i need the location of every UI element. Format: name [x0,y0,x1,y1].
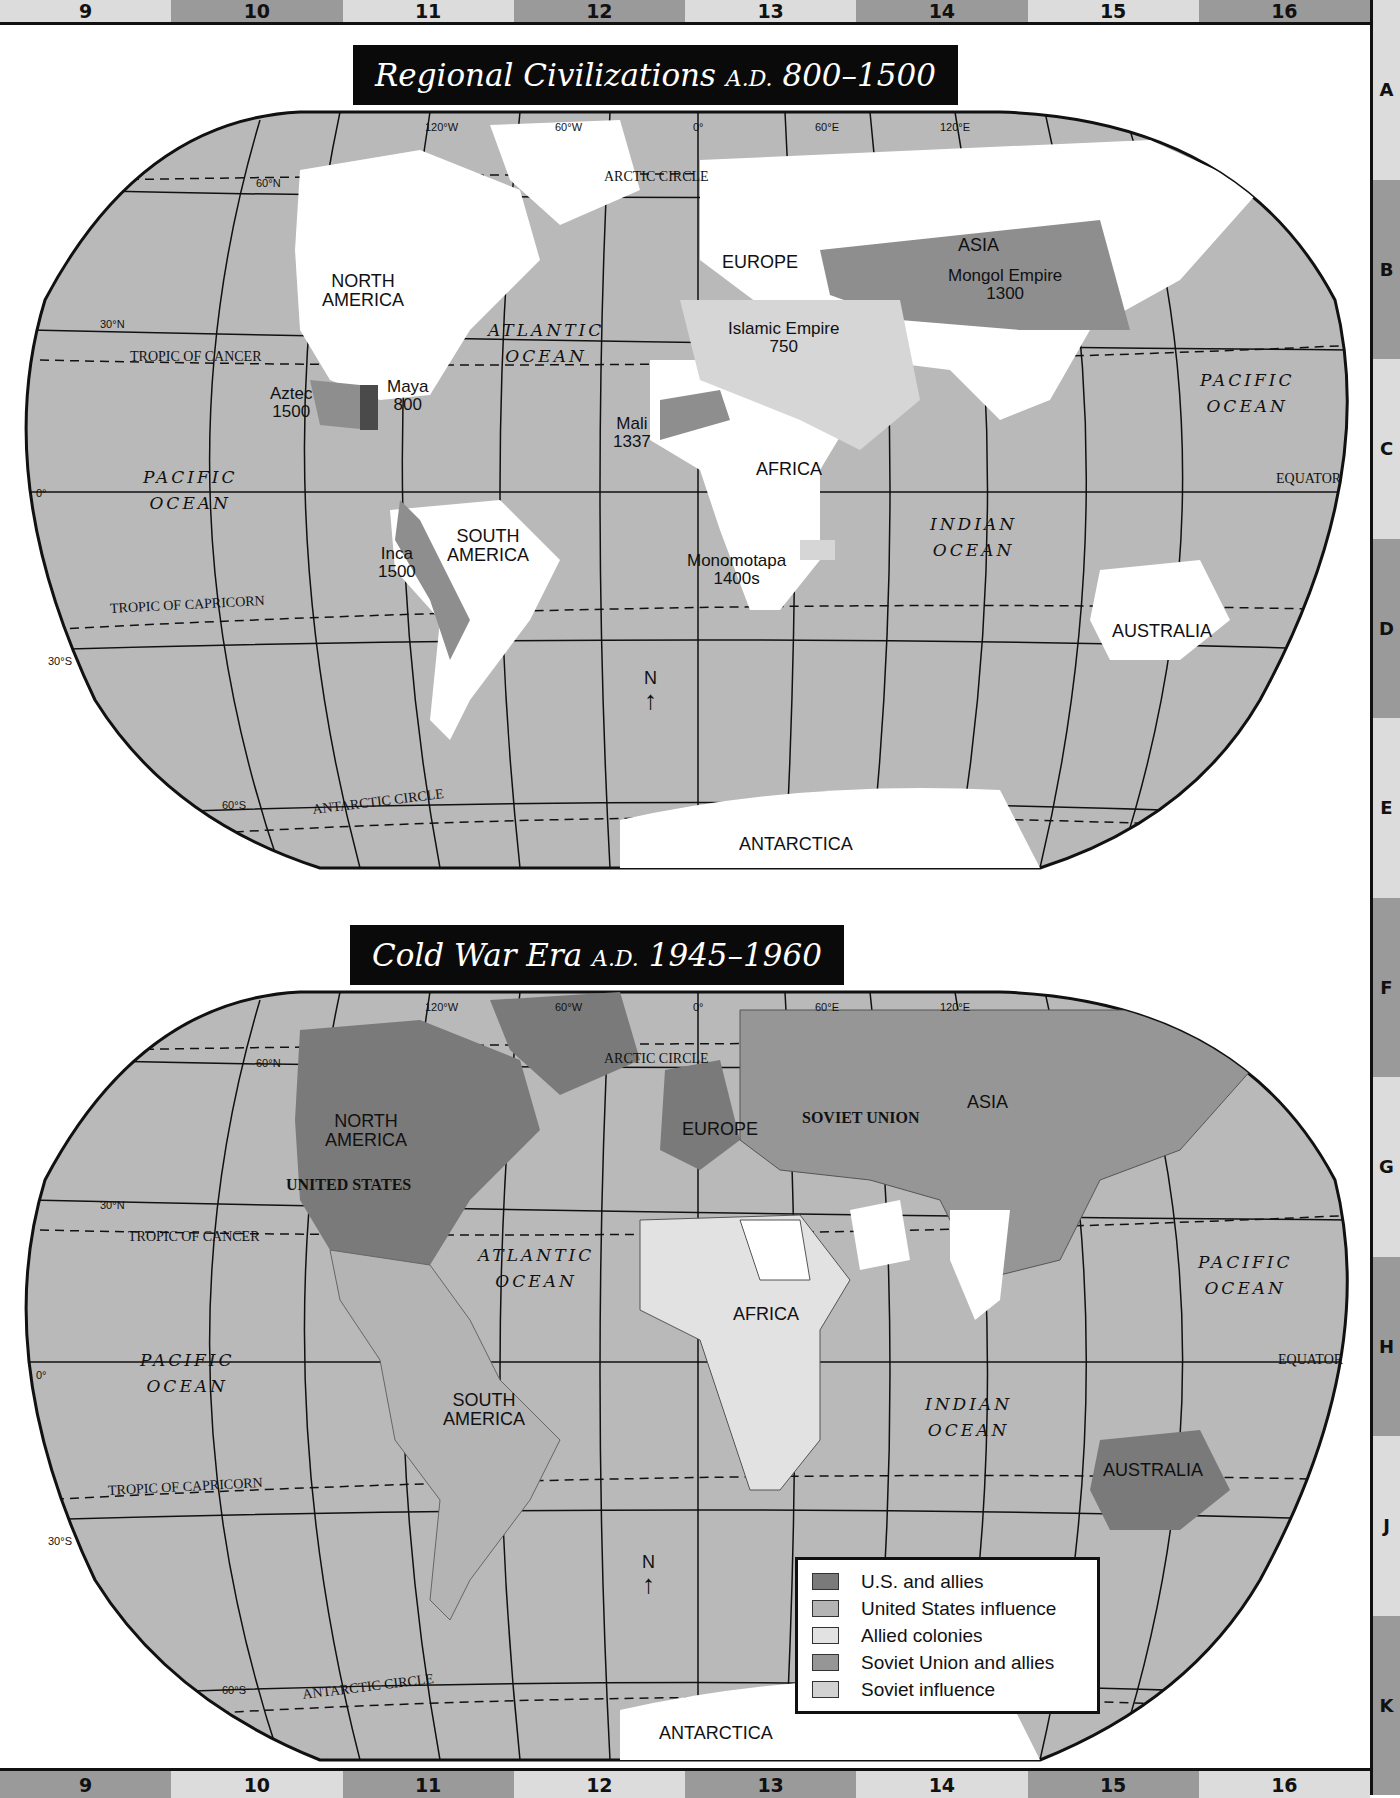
civ-label-maya: Maya 800 [387,378,429,414]
continent-label-south-america: SOUTH AMERICA [443,1391,525,1429]
tropic-of-cancer-label: TROPIC OF CANCER [130,350,261,365]
grid-row: K [1373,1616,1400,1796]
latitude-label: 0° [36,488,47,500]
continent-label-europe: EUROPE [682,1120,758,1139]
latitude-label: 30°N [100,319,125,331]
title-years: 800–1500 [782,57,936,93]
civ-label-islamic-empire: Islamic Empire 750 [728,320,839,356]
continent-label-asia: ASIA [967,1093,1008,1112]
world-map-graphic [0,0,1370,880]
compass-north-indicator: N ↑ [644,668,657,711]
grid-row: B [1373,180,1400,360]
grid-row: F [1373,898,1400,1078]
ocean-label-atlantic: ATLANTIC OCEAN [478,1243,594,1294]
continent-label-australia: AUSTRALIA [1103,1461,1203,1480]
title-main: Cold War Era [372,937,582,973]
continent-label-africa: AFRICA [733,1305,799,1324]
continent-label-europe: EUROPE [722,253,798,272]
grid-row: G [1373,1077,1400,1257]
civ-label-monomotapa: Monomotapa 1400s [687,552,786,588]
title-main: Regional Civilizations [375,57,716,93]
legend-item-us-allies: U.S. and allies [812,1568,1097,1595]
arctic-circle-label: ARCTIC CIRCLE [604,170,709,185]
grid-row-labels: A B C D E F G H J K [1370,0,1400,1795]
map-title: Cold War Era A.D. 1945–1960 [350,925,844,985]
grid-row: H [1373,1257,1400,1437]
world-map-graphic [0,880,1370,1768]
grid-row: E [1373,718,1400,898]
map-regional-civilizations: Regional Civilizations A.D. 800–1500 120… [0,0,1370,880]
equator-label: EQUATOR [1278,1353,1343,1368]
longitude-label: 120°E [940,1002,970,1014]
ocean-label-pacific-east: PACIFIC OCEAN [1200,368,1294,419]
longitude-label: 120°W [425,1002,458,1014]
grid-col: 9 [0,1771,171,1798]
legend-item-us-influence: United States influence [812,1595,1097,1622]
grid-col: 12 [514,1771,685,1798]
legend-swatch [812,1573,839,1590]
ocean-label-pacific-east: PACIFIC OCEAN [1198,1250,1292,1301]
country-label-soviet-union: SOVIET UNION [802,1110,920,1127]
legend-item-allied-colonies: Allied colonies [812,1622,1097,1649]
grid-column-labels-bottom: 9 10 11 12 13 14 15 16 [0,1768,1370,1798]
legend-swatch [812,1654,839,1671]
grid-col: 15 [1028,1771,1199,1798]
compass-north-indicator: N ↑ [642,1552,655,1595]
longitude-label: 60°W [555,1002,582,1014]
legend-swatch [812,1681,839,1698]
north-arrow-icon: ↑ [644,689,657,711]
longitude-label: 120°E [940,122,970,134]
ocean-label-pacific-west: PACIFIC OCEAN [143,465,237,516]
legend-swatch [812,1627,839,1644]
legend-item-soviet-influence: Soviet influence [812,1676,1097,1703]
latitude-label: 30°N [100,1200,125,1212]
grid-col: 14 [856,1771,1027,1798]
map-cold-war-era: Cold War Era A.D. 1945–1960 120°W 60°W 0… [0,880,1370,1768]
title-era: A.D. [592,946,639,971]
map-title: Regional Civilizations A.D. 800–1500 [353,45,958,105]
latitude-label: 60°N [256,178,281,190]
latitude-label: 30°S [48,656,72,668]
legend-swatch [812,1600,839,1617]
civ-label-inca: Inca 1500 [378,545,416,581]
title-era: A.D. [726,66,773,91]
continent-label-north-america: NORTH AMERICA [322,272,404,310]
continent-label-antarctica: ANTARCTICA [659,1724,773,1743]
grid-col: 10 [171,1771,342,1798]
arctic-circle-label: ARCTIC CIRCLE [604,1052,709,1067]
continent-label-south-america: SOUTH AMERICA [447,527,529,565]
ocean-label-indian: INDIAN OCEAN [925,1392,1012,1443]
ocean-label-indian: INDIAN OCEAN [930,512,1017,563]
latitude-label: 60°N [256,1058,281,1070]
grid-col: 13 [685,1771,856,1798]
legend-item-soviet-allies: Soviet Union and allies [812,1649,1097,1676]
title-years: 1945–1960 [649,937,822,973]
latitude-label: 30°S [48,1536,72,1548]
grid-row: J [1373,1436,1400,1616]
continent-label-antarctica: ANTARCTICA [739,835,853,854]
civ-label-aztec: Aztec 1500 [270,385,313,421]
civ-label-mongol-empire: Mongol Empire 1300 [948,267,1062,303]
longitude-label: 0° [693,1002,704,1014]
map-legend: U.S. and allies United States influence … [795,1557,1100,1714]
longitude-label: 0° [693,122,704,134]
longitude-label: 120°W [425,122,458,134]
longitude-label: 60°E [815,122,839,134]
continent-label-asia: ASIA [958,236,999,255]
latitude-label: 0° [36,1370,47,1382]
grid-col: 16 [1199,1771,1370,1798]
continent-label-africa: AFRICA [756,460,822,479]
latitude-label: 60°S [222,1685,246,1697]
equator-label: EQUATOR [1276,472,1341,487]
tropic-of-cancer-label: TROPIC OF CANCER [128,1230,259,1245]
civ-label-mali: Mali 1337 [613,415,651,451]
north-arrow-icon: ↑ [642,1573,655,1595]
country-label-united-states: UNITED STATES [286,1177,411,1194]
longitude-label: 60°W [555,122,582,134]
continent-label-australia: AUSTRALIA [1112,622,1212,641]
latitude-label: 60°S [222,800,246,812]
grid-row: C [1373,359,1400,539]
grid-col: 11 [343,1771,514,1798]
ocean-label-pacific-west: PACIFIC OCEAN [140,1348,234,1399]
grid-row: A [1373,0,1400,180]
